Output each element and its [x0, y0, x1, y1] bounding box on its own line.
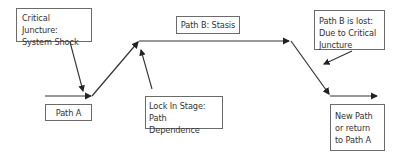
lock-in-box: Lock In Stage: Path Dependence — [145, 96, 223, 129]
new-path-label: New Path or return to Path A — [335, 111, 373, 145]
path-a-box: Path A — [45, 104, 92, 121]
critical-juncture-label: Critical Juncture: System Shock — [22, 13, 79, 47]
path-b-lost-label: Path B is lost: Due to Critical Juncture — [319, 16, 376, 50]
path-b-lost-arrow — [324, 51, 352, 64]
lock-in-label: Lock In Stage: Path Dependence — [149, 101, 206, 135]
critical-juncture-arrow — [70, 42, 83, 91]
path-b-stasis-box: Path B: Stasis — [176, 16, 240, 34]
path-b-stasis-label: Path B: Stasis — [181, 20, 235, 30]
lock-in-arrow — [141, 50, 152, 89]
path-a-label: Path A — [56, 108, 82, 118]
rise-line — [92, 42, 138, 96]
path-b-lost-box: Path B is lost: Due to Critical Juncture — [314, 10, 385, 50]
new-path-box: New Path or return to Path A — [330, 104, 385, 151]
critical-juncture-box: Critical Juncture: System Shock — [16, 8, 92, 42]
